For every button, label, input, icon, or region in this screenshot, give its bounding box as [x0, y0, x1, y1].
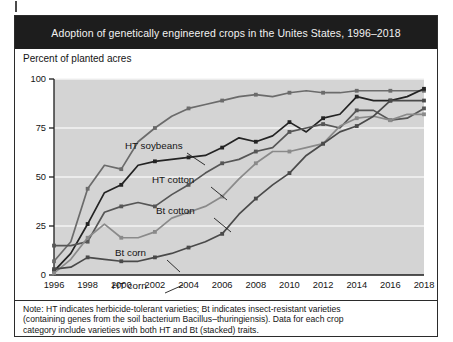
- x-axis-tick-label: 2004: [178, 280, 199, 290]
- series-marker: [254, 93, 258, 97]
- series-marker: [86, 187, 90, 191]
- series-marker: [355, 108, 359, 112]
- series-marker: [52, 259, 56, 263]
- series-marker: [86, 222, 90, 226]
- line-chart-svg: 0255075100199619982000200220042006200820…: [15, 49, 439, 302]
- note-line-3: category include varieties with both HT …: [23, 325, 429, 335]
- series-annotation: Bt cotton: [156, 205, 195, 216]
- x-axis-tick-label: 1998: [77, 280, 98, 290]
- series-marker: [355, 124, 359, 128]
- figure-title: Adoption of genetically engineered crops…: [51, 27, 400, 39]
- series-marker: [321, 91, 325, 95]
- series-marker: [187, 246, 191, 250]
- y-axis-tick-label: 100: [30, 74, 46, 84]
- series-marker: [388, 118, 392, 122]
- series-marker: [288, 150, 292, 154]
- series-marker: [220, 146, 224, 150]
- figure-title-bar: Adoption of genetically engineered crops…: [15, 16, 437, 49]
- series-marker: [254, 161, 258, 165]
- figure-note: Note: HT indicates herbicide-tolerant va…: [15, 300, 437, 336]
- series-marker: [288, 171, 292, 175]
- series-marker: [153, 126, 157, 130]
- series-marker: [422, 112, 426, 116]
- series-marker: [321, 142, 325, 146]
- x-axis-tick-label: 2018: [414, 280, 435, 290]
- series-marker: [220, 161, 224, 165]
- series-marker: [119, 259, 123, 263]
- series-annotation: HT cotton: [152, 174, 194, 185]
- y-axis-tick-label: 50: [36, 172, 46, 182]
- y-axis-tick-label: 75: [36, 123, 46, 133]
- series-marker: [355, 95, 359, 99]
- series-marker: [254, 197, 258, 201]
- x-axis-tick-label: 2012: [313, 280, 334, 290]
- series-marker: [86, 255, 90, 259]
- series-marker: [321, 116, 325, 120]
- series-marker: [52, 267, 56, 271]
- y-axis-tick-label: 0: [41, 270, 46, 280]
- series-marker: [355, 116, 359, 120]
- note-line-1: Note: HT indicates herbicide-tolerant va…: [23, 304, 429, 314]
- series-marker: [119, 183, 123, 187]
- series-marker: [288, 130, 292, 134]
- series-marker: [153, 230, 157, 234]
- y-axis-tick-label: 25: [36, 221, 46, 231]
- series-annotation: HT corn: [112, 280, 147, 291]
- series-marker: [119, 236, 123, 240]
- scan-artifact-tick: [15, 1, 17, 12]
- series-marker: [288, 91, 292, 95]
- x-axis-tick-label: 2002: [145, 280, 166, 290]
- series-marker: [153, 255, 157, 259]
- series-marker: [119, 205, 123, 209]
- x-axis-tick-label: 2014: [346, 280, 367, 290]
- note-line-2: (containing genes from the soil bacteriu…: [23, 314, 429, 324]
- series-marker: [388, 89, 392, 93]
- series-marker: [288, 120, 292, 124]
- series-marker: [422, 87, 426, 91]
- series-marker: [220, 232, 224, 236]
- x-axis-tick-label: 1996: [44, 280, 65, 290]
- series-annotation: Bt corn: [115, 247, 146, 258]
- x-axis-tick-label: 2010: [279, 280, 300, 290]
- series-marker: [254, 140, 258, 144]
- series-annotation: HT soybeans: [125, 140, 183, 151]
- series-marker: [153, 159, 157, 163]
- figure-container: Adoption of genetically engineered crops…: [14, 15, 438, 337]
- series-marker: [86, 236, 90, 240]
- plot-area: 0255075100199619982000200220042006200820…: [15, 49, 437, 302]
- series-marker: [220, 99, 224, 103]
- series-marker: [321, 122, 325, 126]
- x-axis-tick-label: 2016: [380, 280, 401, 290]
- series-marker: [119, 167, 123, 171]
- x-axis-tick-label: 2006: [212, 280, 233, 290]
- series-marker: [254, 150, 258, 154]
- series-marker: [388, 99, 392, 103]
- series-marker: [52, 244, 56, 248]
- series-marker: [187, 107, 191, 111]
- series-marker: [422, 99, 426, 103]
- series-marker: [355, 89, 359, 93]
- chart-body: Percent of planted acres 025507510019961…: [15, 49, 437, 302]
- series-marker: [422, 107, 426, 111]
- series-marker: [52, 271, 56, 275]
- series-marker: [187, 156, 191, 160]
- x-axis-tick-label: 2008: [245, 280, 266, 290]
